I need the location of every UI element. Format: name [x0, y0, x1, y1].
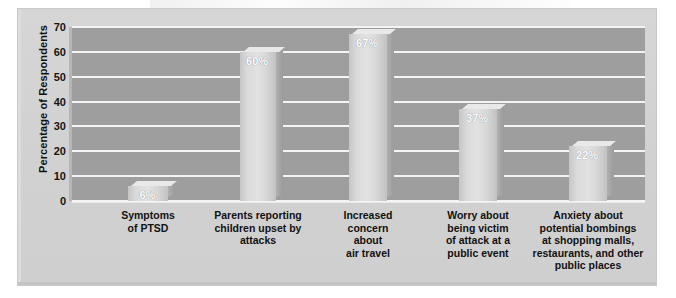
bar: 60% — [240, 52, 276, 201]
bar-value-label: 22% — [576, 149, 598, 161]
bar-front-face — [240, 52, 276, 201]
y-axis-tick-label: 30 — [54, 120, 66, 132]
bar-top-face — [131, 181, 177, 186]
y-axis-tick-label: 70 — [54, 21, 66, 33]
y-axis-title: Percentage of Respondents — [37, 4, 49, 194]
bar-side-face — [607, 140, 614, 197]
x-axis-category-label: Parents reporting children upset by atta… — [198, 209, 318, 247]
y-axis-tick-label: 50 — [54, 71, 66, 83]
y-axis-tick-label: 20 — [54, 145, 66, 157]
bar: 37% — [459, 109, 497, 201]
gridline — [72, 26, 645, 28]
y-axis-tick-label: 0 — [60, 195, 66, 207]
x-axis-category-label: Increased concern about air travel — [320, 209, 416, 259]
bar-top-face — [243, 47, 285, 52]
bar-chart-figure: Percentage of Respondents 01020304050607… — [0, 0, 676, 298]
bar: 22% — [569, 146, 607, 201]
x-axis-category-label: Symptoms of PTSD — [98, 209, 198, 234]
bar-value-label: 6% — [139, 189, 155, 201]
x-axis-category-label: Worry about being victim of attack at a … — [423, 209, 533, 259]
bar-value-label: 60% — [246, 55, 268, 67]
bar-value-label: 37% — [466, 112, 488, 124]
y-axis-tick-label: 60 — [54, 46, 66, 58]
y-axis-tick-label: 40 — [54, 96, 66, 108]
frame-left-highlight — [18, 9, 21, 285]
bar-front-face — [349, 34, 387, 201]
chart-frame: Percentage of Respondents 01020304050607… — [18, 9, 656, 285]
x-axis-category-label: Anxiety about potential bombings at shop… — [518, 209, 658, 272]
bar-top-face — [462, 104, 506, 109]
plot-area: 010203040506070 6%60%67%37%22% — [72, 27, 645, 201]
bar-side-face — [497, 103, 504, 197]
scan-artifact — [150, 0, 570, 9]
bar-side-face — [387, 28, 394, 197]
bar: 67% — [349, 34, 387, 201]
bar: 6% — [128, 186, 168, 201]
bar-top-face — [572, 141, 616, 146]
bar-value-label: 67% — [356, 37, 378, 49]
bar-top-face — [352, 29, 396, 34]
y-axis-tick-label: 10 — [54, 170, 66, 182]
bar-side-face — [276, 46, 283, 197]
frame-bottom-shadow — [18, 282, 656, 285]
